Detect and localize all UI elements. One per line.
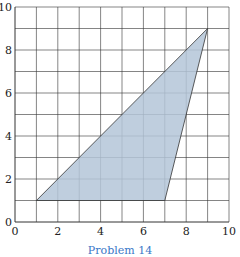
y-tick-label: 0 (5, 216, 12, 229)
x-tick-label: 10 (222, 225, 236, 238)
y-tick-label: 8 (5, 44, 12, 57)
y-tick-label: 10 (0, 1, 12, 14)
x-tick-label: 2 (54, 225, 61, 238)
y-tick-label: 6 (5, 87, 12, 100)
y-tick-label: 2 (5, 173, 12, 186)
x-tick-label: 6 (140, 225, 147, 238)
y-axis-ticks: 0246810 (0, 1, 12, 229)
x-tick-label: 8 (183, 225, 190, 238)
x-tick-label: 4 (97, 225, 104, 238)
y-tick-label: 4 (5, 130, 12, 143)
x-axis-ticks: 0246810 (12, 225, 237, 238)
x-tick-label: 0 (12, 225, 19, 238)
chart-caption: Problem 14 (0, 244, 240, 257)
